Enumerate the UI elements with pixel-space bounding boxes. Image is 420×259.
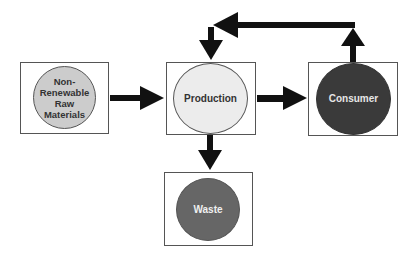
arrow-raw-to-production xyxy=(110,86,164,110)
arrow-production-to-consumer xyxy=(257,86,307,110)
arrows-layer xyxy=(0,0,420,259)
arrow-production-to-waste xyxy=(198,135,222,170)
arrow-consumer-to-production xyxy=(199,12,365,62)
